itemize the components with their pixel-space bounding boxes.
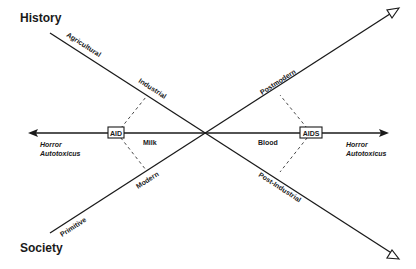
left-horror-label: Horror [40,141,63,148]
postmodern-label: Postmodern [259,68,297,96]
right-autotoxicus-label: Autotoxicus [345,150,387,157]
industrial-label: Industrial [137,77,167,100]
aids-label: AIDS [303,130,320,137]
heading-society: Society [20,241,63,255]
blood-label: Blood [258,139,278,146]
society-arrowhead-icon [387,8,399,18]
dashed-aids-postindustrial [280,133,311,172]
primitive-label: Primitive [59,216,88,238]
dashed-aid-modern [117,133,146,170]
heading-history: History [20,11,62,25]
modern-label: Modern [135,170,160,190]
aid-label: AID [110,130,122,137]
post-industrial-label: Post-Industrial [257,171,302,203]
milk-label: Milk [143,139,157,146]
diagram-canvas: History Society AID AIDS Horror Autotoxi… [0,0,416,269]
left-autotoxicus-label: Autotoxicus [39,150,81,157]
society-line [50,12,393,233]
history-line [50,33,393,254]
right-horror-label: Horror [346,141,369,148]
